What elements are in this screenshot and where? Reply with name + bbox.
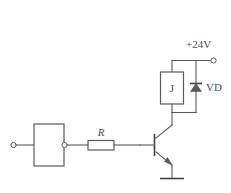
supply-terminal-node <box>211 58 216 63</box>
supply-rail-group <box>172 58 216 63</box>
input-block-group <box>11 124 67 166</box>
collector-junction-group <box>156 113 196 139</box>
diode-branch-group <box>190 61 202 113</box>
input-block-box <box>34 124 64 166</box>
supply-voltage-label: +24V <box>186 38 211 50</box>
input-block-output-node <box>62 142 67 147</box>
relay-label: J <box>170 82 175 94</box>
transistor-emitter-arrow <box>165 158 173 166</box>
collector-lead-diagonal <box>156 125 172 138</box>
diode-anode-triangle <box>191 84 202 92</box>
circuit-diagram-canvas: +24V VD J R <box>0 0 231 193</box>
circuit-schematic: +24V VD J R <box>0 0 231 193</box>
diode-label: VD <box>206 81 222 93</box>
resistor-group <box>67 141 140 151</box>
resistor-label: R <box>97 126 105 138</box>
ground-group <box>160 165 184 179</box>
input-terminal-node <box>11 142 16 147</box>
resistor-body <box>88 141 114 151</box>
